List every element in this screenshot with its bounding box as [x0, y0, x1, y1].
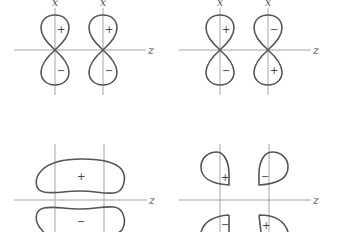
- panel-top-right: x x z + − − +: [179, 0, 319, 95]
- phase-sign: −: [105, 65, 113, 76]
- phase-sign: −: [221, 219, 229, 230]
- phase-sign: +: [57, 24, 65, 35]
- orbital-diagram: x x z + − + − x x z + − − + z: [0, 0, 339, 232]
- x-axis-label-right: x: [265, 0, 272, 9]
- phase-sign: −: [77, 216, 85, 227]
- z-axis-label: z: [312, 44, 319, 57]
- phase-sign: +: [105, 24, 113, 35]
- x-axis-label-left: x: [52, 0, 59, 9]
- panel-top-left: x x z + − + −: [14, 0, 154, 95]
- z-axis-label: z: [147, 44, 154, 57]
- phase-sign: +: [222, 24, 230, 35]
- panel-bottom-right: z + − − +: [179, 144, 319, 232]
- phase-sign: +: [270, 65, 278, 76]
- z-axis-label: z: [148, 194, 155, 207]
- z-axis-label: z: [312, 194, 319, 207]
- phase-sign: −: [261, 171, 269, 182]
- x-axis-label-left: x: [217, 0, 224, 9]
- phase-sign: −: [270, 24, 278, 35]
- phase-sign: −: [57, 65, 65, 76]
- panel-bottom-left: z + −: [14, 144, 155, 232]
- phase-sign: −: [222, 65, 230, 76]
- phase-sign: +: [262, 220, 270, 231]
- phase-sign: +: [77, 171, 85, 182]
- phase-sign: +: [221, 172, 229, 183]
- x-axis-label-right: x: [100, 0, 107, 9]
